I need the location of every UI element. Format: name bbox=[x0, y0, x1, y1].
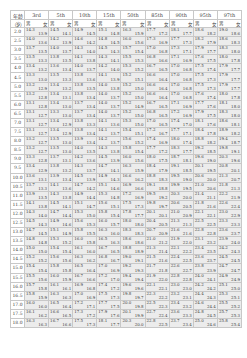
value-cell: 17.917.7 bbox=[217, 82, 241, 91]
male-value: 14.0 bbox=[26, 37, 35, 41]
male-value: 16.3 bbox=[122, 28, 131, 32]
male-value: 21.8 bbox=[219, 183, 228, 187]
male-value: 15.2 bbox=[122, 83, 131, 87]
female-value: 17.7 bbox=[231, 68, 240, 72]
female-value: 12.7 bbox=[38, 114, 47, 118]
table-row: 11.514.113.814.514.115.114.715.615.117.5… bbox=[11, 200, 242, 209]
female-value: 24.3 bbox=[207, 296, 216, 300]
female-value: 14.2 bbox=[86, 187, 95, 191]
value-cell: 16.315.9 bbox=[121, 164, 145, 173]
female-value: 22.1 bbox=[159, 287, 168, 291]
male-value: 14.9 bbox=[74, 192, 83, 196]
female-value: 22.5 bbox=[207, 223, 216, 227]
male-value: 14.0 bbox=[98, 83, 107, 87]
female-value: 13.6 bbox=[86, 159, 95, 163]
female-value: 16.2 bbox=[86, 259, 95, 263]
value-cell: 20.320.0 bbox=[121, 319, 145, 328]
female-value: 16.9 bbox=[135, 196, 144, 200]
male-value: 18.6 bbox=[195, 28, 204, 32]
age-cell: 6.5 bbox=[11, 109, 25, 118]
value-cell: 13.413.1 bbox=[49, 91, 73, 100]
female-value: 18.2 bbox=[207, 32, 216, 36]
male-value: 14.0 bbox=[98, 101, 107, 105]
percentile-header: 3rd bbox=[25, 11, 49, 20]
male-value: 24.2 bbox=[219, 246, 228, 250]
female-value: 22.0 bbox=[183, 241, 192, 245]
age-cell: 2.0 bbox=[11, 28, 25, 37]
female-value: 16.8 bbox=[183, 96, 192, 100]
male-value: 13.6 bbox=[26, 174, 35, 178]
male-value: 24.6 bbox=[195, 301, 204, 305]
value-cell: 21.922.0 bbox=[145, 273, 169, 282]
female-value: 17.5 bbox=[207, 114, 216, 118]
female-value: 24.7 bbox=[231, 269, 240, 273]
male-value: 16.3 bbox=[26, 319, 35, 323]
male-value: 17.9 bbox=[195, 110, 204, 114]
male-value: 14.2 bbox=[74, 155, 83, 159]
value-cell: 16.616.4 bbox=[145, 82, 169, 91]
value-cell: 14.514.1 bbox=[49, 200, 73, 209]
value-cell: 22.622.7 bbox=[169, 264, 193, 273]
female-value: 14.9 bbox=[62, 232, 71, 236]
male-value: 24.5 bbox=[219, 255, 228, 259]
male-value: 19.5 bbox=[147, 192, 156, 196]
value-cell: 20.620.0 bbox=[193, 173, 217, 182]
female-value: 14.1 bbox=[111, 169, 120, 173]
male-value: 13.2 bbox=[26, 146, 35, 150]
male-value: 13.6 bbox=[50, 64, 59, 68]
male-value: 25.1 bbox=[219, 283, 228, 287]
table-row: 5.513.212.813.413.113.813.414.013.715.21… bbox=[11, 91, 242, 100]
value-cell: 19.819.7 bbox=[145, 200, 169, 209]
female-value: 14.3 bbox=[38, 223, 47, 227]
female-value: 17.6 bbox=[207, 105, 216, 109]
value-cell: 24.024.1 bbox=[193, 273, 217, 282]
male-value: 17.3 bbox=[171, 46, 180, 50]
female-label: 女 bbox=[115, 21, 119, 27]
female-value: 22.4 bbox=[159, 314, 168, 318]
female-value: 17.8 bbox=[231, 96, 240, 100]
male-value: 17.1 bbox=[171, 101, 180, 105]
female-value: 13.8 bbox=[111, 87, 120, 91]
female-value: 16.8 bbox=[183, 87, 192, 91]
female-value: 16.9 bbox=[183, 59, 192, 63]
male-value: 16.6 bbox=[50, 310, 59, 314]
female-value: 22.5 bbox=[183, 259, 192, 263]
female-value: 15.1 bbox=[135, 78, 144, 82]
male-value: 16.1 bbox=[50, 283, 59, 287]
female-value: 13.8 bbox=[86, 59, 95, 63]
female-value: 13.5 bbox=[86, 150, 95, 154]
female-value: 25.4 bbox=[231, 323, 240, 327]
value-cell: 13.813.2 bbox=[49, 164, 73, 173]
female-label: 女 bbox=[91, 21, 95, 27]
female-value: 17.5 bbox=[159, 159, 168, 163]
female-value: 13.1 bbox=[38, 178, 47, 182]
female-value: 16.6 bbox=[135, 187, 144, 191]
male-value: 17.5 bbox=[195, 73, 204, 77]
value-cell: 13.613.1 bbox=[25, 173, 49, 182]
female-value: 16.8 bbox=[86, 287, 95, 291]
male-value: 14.5 bbox=[26, 219, 35, 223]
value-cell: 17.517.3 bbox=[121, 200, 145, 209]
male-value: 14.9 bbox=[50, 219, 59, 223]
female-value: 15.8 bbox=[38, 287, 47, 291]
female-value: 20.5 bbox=[159, 223, 168, 227]
table-row: 10.513.713.314.113.614.714.215.114.616.9… bbox=[11, 182, 242, 191]
male-value: 25.8 bbox=[219, 319, 228, 323]
male-value: 18.0 bbox=[171, 137, 180, 141]
percentile-header: 90th bbox=[169, 11, 193, 20]
male-value: 17.4 bbox=[171, 119, 180, 123]
male-value: 19.9 bbox=[171, 183, 180, 187]
female-value: 13.3 bbox=[86, 123, 95, 127]
male-value: 20.3 bbox=[171, 192, 180, 196]
male-value: 21.0 bbox=[147, 237, 156, 241]
value-cell: 13.913.5 bbox=[25, 191, 49, 200]
female-value: 13.8 bbox=[62, 196, 71, 200]
age-cell: 8.5 bbox=[11, 146, 25, 155]
female-value: 17.0 bbox=[111, 278, 120, 282]
female-value: 15.4 bbox=[62, 250, 71, 254]
female-value: 22.9 bbox=[231, 214, 240, 218]
male-value: 17.2 bbox=[171, 110, 180, 114]
female-value: 17.0 bbox=[183, 123, 192, 127]
female-value: 13.6 bbox=[111, 123, 120, 127]
female-value: 17.2 bbox=[159, 150, 168, 154]
